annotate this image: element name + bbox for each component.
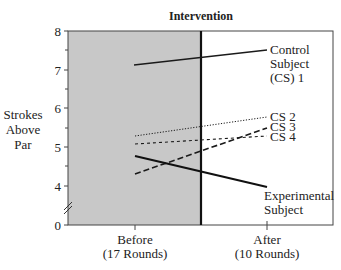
- chart-title: Intervention: [169, 9, 233, 23]
- svg-text:(17 Rounds): (17 Rounds): [103, 246, 168, 261]
- svg-text:8: 8: [55, 24, 62, 39]
- svg-text:7: 7: [55, 63, 62, 78]
- x-axis-labels: Before (17 Rounds) After (10 Rounds): [103, 232, 300, 261]
- svg-text:(10 Rounds): (10 Rounds): [235, 246, 300, 261]
- x-label-after: After: [253, 232, 281, 247]
- svg-text:Strokes: Strokes: [4, 107, 43, 122]
- svg-text:Subject: Subject: [264, 202, 303, 217]
- svg-text:Par: Par: [14, 137, 32, 152]
- y-axis-label: Strokes Above Par: [4, 107, 43, 152]
- svg-text:4: 4: [55, 179, 62, 194]
- chart-canvas: 8 7 6 5 4 0 Intervention Strokes Above P…: [0, 0, 341, 270]
- svg-text:Subject: Subject: [270, 56, 309, 71]
- y-tick-labels: 8 7 6 5 4 0: [55, 24, 62, 233]
- label-cs4: CS 4: [270, 129, 296, 144]
- svg-text:0: 0: [55, 218, 62, 233]
- x-label-before: Before: [117, 232, 153, 247]
- svg-text:6: 6: [55, 101, 62, 116]
- y-axis: [64, 31, 68, 225]
- svg-text:Above: Above: [6, 122, 41, 137]
- label-experimental: Experimental: [264, 188, 334, 203]
- svg-text:(CS) 1: (CS) 1: [270, 70, 304, 85]
- series-labels: Control Subject (CS) 1 CS 2 CS 3 CS 4 Ex…: [264, 42, 334, 217]
- label-cs1: Control: [270, 42, 310, 57]
- svg-text:5: 5: [55, 140, 62, 155]
